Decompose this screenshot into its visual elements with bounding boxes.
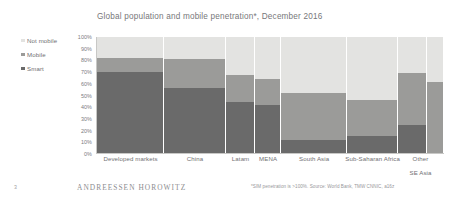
bar-column[interactable] [427, 37, 443, 153]
source-note: *SIM penetration is >100%. Source: World… [251, 184, 394, 189]
x-axis-label-text: China [187, 155, 203, 162]
slide-canvas: Global population and mobile penetration… [0, 0, 457, 204]
bar-segment-mobile[interactable] [281, 93, 346, 141]
legend-swatch-mobile [21, 53, 25, 57]
bar-segment-mobile[interactable] [347, 100, 397, 136]
x-axis-label-text: Sub-Saharan Africa [345, 155, 400, 162]
page-title: Global population and mobile penetration… [97, 12, 322, 21]
bar-segment-not-mobile[interactable] [255, 37, 280, 79]
bar-segment-smart[interactable] [255, 105, 280, 153]
bar-segment-mobile[interactable] [398, 73, 426, 125]
bar-segment-not-mobile[interactable] [164, 37, 225, 59]
y-axis-tick: 10% [81, 139, 92, 145]
brand-wordmark: ANDREESSEN HOROWITZ [77, 183, 186, 192]
x-axis-label: Latam [232, 155, 249, 162]
legend-label-mobile: Mobile [27, 51, 46, 58]
bar-segment-not-mobile[interactable] [281, 37, 346, 93]
bar-segment-mobile[interactable] [97, 58, 163, 72]
y-axis-tick: 60% [81, 81, 92, 87]
bar-segment-not-mobile[interactable] [398, 37, 426, 73]
x-axis-line [96, 153, 444, 154]
legend-label-not-mobile: Not mobile [27, 37, 57, 44]
x-axis-label: MENA [259, 155, 277, 162]
x-axis-label-text: MENA [259, 155, 277, 162]
y-axis-tick: 30% [81, 116, 92, 122]
x-axis-label: China [187, 155, 203, 162]
y-axis-tick: 40% [81, 104, 92, 110]
bar-segment-not-mobile[interactable] [427, 37, 443, 82]
bar-segment-smart[interactable] [347, 136, 397, 153]
legend-label-smart: Smart [27, 65, 44, 72]
bar-segment-smart[interactable] [226, 102, 254, 153]
bar-segment-mobile[interactable] [255, 79, 280, 106]
x-axis-label: South Asia [299, 155, 329, 162]
x-axis-label: Sub-Saharan Africa [345, 155, 400, 162]
x-axis-label-text: Other [413, 155, 429, 162]
bar-segment-smart[interactable] [164, 88, 225, 153]
bar-segment-mobile[interactable] [226, 75, 254, 102]
bar-segment-not-mobile[interactable] [226, 37, 254, 75]
bar-segment-not-mobile[interactable] [97, 37, 163, 58]
bar-column[interactable] [255, 37, 281, 153]
bar-column[interactable] [226, 37, 255, 153]
x-axis-label-text-line2: SE Asia [409, 162, 431, 176]
x-axis-label: Developed markets [103, 155, 157, 162]
y-axis-tick: 70% [81, 69, 92, 75]
x-axis-labels: Developed marketsChinaLatamMENASouth Asi… [97, 155, 443, 177]
y-axis-tick: 100% [78, 34, 92, 40]
legend-swatch-smart [21, 67, 25, 71]
bar-segment-smart[interactable] [281, 140, 346, 153]
bar-column[interactable] [281, 37, 347, 153]
y-axis: 100%90%80%70%60%50%40%30%20%10%0% [62, 33, 94, 157]
y-axis-tick: 0% [84, 151, 92, 157]
x-axis-label-text: South Asia [299, 155, 329, 162]
bar-column[interactable] [347, 37, 398, 153]
y-axis-tick: 50% [81, 93, 92, 99]
bar-segment-mobile[interactable] [427, 82, 443, 153]
bar-segment-not-mobile[interactable] [347, 37, 397, 100]
bar-segment-smart[interactable] [97, 72, 163, 153]
x-axis-label-text: Latam [232, 155, 249, 162]
page-number: 3 [14, 184, 17, 190]
y-axis-tick: 90% [81, 46, 92, 52]
x-axis-label-text: Developed markets [103, 155, 157, 162]
plot-area-wrapper [97, 37, 443, 153]
plot-area [97, 37, 443, 153]
y-axis-tick: 20% [81, 128, 92, 134]
x-axis-label: OtherSE Asia [409, 155, 431, 176]
bar-column[interactable] [398, 37, 427, 153]
legend-swatch-not-mobile [21, 39, 25, 43]
bar-column[interactable] [164, 37, 226, 153]
bar-column[interactable] [97, 37, 164, 153]
bar-segment-smart[interactable] [398, 125, 426, 153]
bar-segment-mobile[interactable] [164, 59, 225, 88]
y-axis-tick: 80% [81, 57, 92, 63]
